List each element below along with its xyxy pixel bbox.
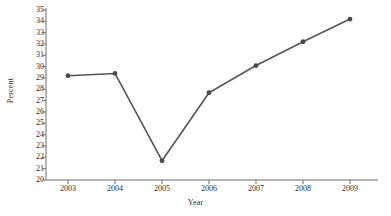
plot-area (0, 0, 391, 216)
data-point-marker (301, 39, 306, 44)
line-chart-figure: Percent 20212223242526272829303132333435… (0, 0, 391, 216)
data-point-marker (160, 158, 165, 163)
data-point-marker (113, 71, 118, 76)
data-point-marker (66, 73, 71, 78)
data-point-marker (207, 90, 212, 95)
data-point-marker (254, 63, 259, 68)
data-point-marker (348, 17, 353, 22)
series-line-percent (68, 19, 350, 161)
